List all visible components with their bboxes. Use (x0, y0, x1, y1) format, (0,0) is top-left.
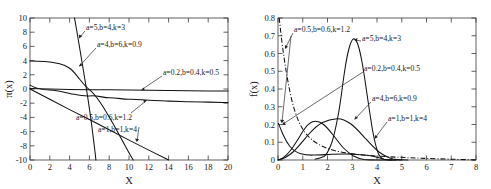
svg-text:8: 8 (474, 162, 478, 172)
svg-text:0.2: 0.2 (264, 120, 275, 130)
svg-text:14: 14 (164, 162, 173, 172)
svg-text:0.8: 0.8 (264, 13, 275, 23)
svg-text:-4: -4 (20, 112, 28, 122)
curve-left-a4-b6-k09 (30, 61, 133, 160)
left-x-axis-title: X (125, 175, 133, 186)
svg-text:4: 4 (23, 56, 28, 66)
svg-text:0: 0 (23, 84, 27, 94)
svg-text:0: 0 (28, 162, 32, 172)
chart-panel-right: 0 1 2 3 4 5 6 7 8 0 0.1 0.2 0.3 0.4 0.5 … (246, 0, 491, 189)
svg-text:7: 7 (449, 162, 453, 172)
svg-text:-10: -10 (16, 155, 27, 165)
svg-text:0: 0 (276, 162, 280, 172)
right-annotation-a5-b4-k3: a=5,b=4,k=3 (362, 34, 401, 43)
chart-panel-left: 0 2 4 6 8 10 12 14 16 18 20 -10 -8 -6 -4… (0, 0, 245, 189)
curve-left-a05-b06-k12 (30, 85, 228, 103)
right-annotation-a05-b06-k12: a=0.5,b=0.6,k=1.2 (294, 25, 350, 34)
left-annotation-a5-b4-k3: a=5,b=4,k=3 (86, 23, 125, 32)
svg-text:20: 20 (224, 162, 233, 172)
svg-text:10: 10 (19, 13, 28, 23)
right-y-axis-title: f(x) (248, 81, 260, 97)
left-plot-svg: 0 2 4 6 8 10 12 14 16 18 20 -10 -8 -6 -4… (0, 0, 245, 189)
svg-text:4: 4 (67, 162, 72, 172)
left-annotation-a1-b1-k4: a=1,b=1,k=4 (98, 125, 137, 134)
left-y-axis-title: π(x) (3, 80, 15, 98)
svg-text:6: 6 (424, 162, 428, 172)
svg-text:-8: -8 (20, 141, 27, 151)
right-annotation-a4-b6-k09: a=4,b=6,k=0.9 (372, 94, 417, 103)
curve-left-a02-b04-k05 (30, 88, 228, 91)
right-plot-svg: 0 1 2 3 4 5 6 7 8 0 0.1 0.2 0.3 0.4 0.5 … (246, 0, 491, 189)
svg-text:8: 8 (107, 162, 111, 172)
left-x-tick-labels: 0 2 4 6 8 10 12 14 16 18 20 (28, 162, 232, 172)
svg-text:0.1: 0.1 (264, 137, 275, 147)
svg-text:8: 8 (23, 27, 27, 37)
svg-text:18: 18 (204, 162, 213, 172)
right-x-tick-labels: 0 1 2 3 4 5 6 7 8 (276, 162, 478, 172)
svg-text:12: 12 (145, 162, 154, 172)
right-y-tick-labels: 0 0.1 0.2 0.3 0.4 0.5 0.6 0.7 0.8 (264, 13, 275, 165)
svg-text:0: 0 (271, 155, 275, 165)
right-annotation-a02-b04-k05: a=0.2,b=0.4,k=0.5 (364, 64, 420, 73)
svg-text:2: 2 (325, 162, 329, 172)
left-annotation-a02-b04-k05: a=0.2,b=0.4,k=0.5 (163, 68, 219, 77)
figure-container: 0 2 4 6 8 10 12 14 16 18 20 -10 -8 -6 -4… (0, 0, 491, 189)
svg-text:4: 4 (375, 162, 380, 172)
svg-text:2: 2 (48, 162, 52, 172)
svg-text:0.5: 0.5 (264, 66, 275, 76)
right-annotation-a1-b1-k4: a=1,b=1,k=4 (388, 114, 427, 123)
left-y-tick-labels: -10 -8 -6 -4 -2 0 2 4 6 8 10 (16, 13, 28, 165)
svg-text:16: 16 (184, 162, 193, 172)
svg-text:-6: -6 (20, 127, 27, 137)
svg-text:0.4: 0.4 (264, 84, 275, 94)
svg-text:0.3: 0.3 (264, 102, 275, 112)
svg-text:0.6: 0.6 (264, 49, 275, 59)
right-x-axis-title: X (373, 175, 381, 186)
svg-text:10: 10 (125, 162, 134, 172)
svg-text:2: 2 (23, 70, 27, 80)
svg-text:6: 6 (23, 41, 27, 51)
left-annotation-a05-b06-k12: a=0.5,b=0.6,k=1.2 (76, 113, 132, 122)
left-annotation-a4-b6-k09: a=4,b=6,k=0.9 (97, 40, 142, 49)
svg-text:1: 1 (301, 162, 305, 172)
left-annotations: a=5,b=4,k=3 a=4,b=6,k=0.9 a=0.2,b=0.4,k=… (76, 23, 219, 134)
svg-text:6: 6 (87, 162, 91, 172)
svg-text:-2: -2 (20, 98, 27, 108)
svg-text:5: 5 (400, 162, 404, 172)
svg-text:3: 3 (350, 162, 354, 172)
svg-text:0.7: 0.7 (264, 31, 275, 41)
